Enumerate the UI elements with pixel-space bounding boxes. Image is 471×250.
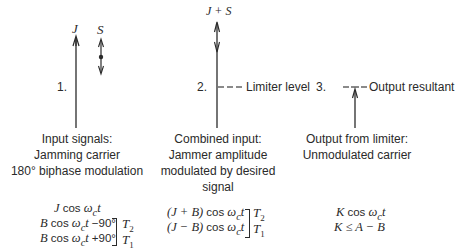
formula-bracket — [245, 209, 250, 238]
formula-omega: ω — [84, 201, 93, 215]
j-plus-s-vector-arrow — [215, 22, 220, 128]
formula-t: t — [97, 201, 100, 215]
formula-cos: cos — [63, 202, 81, 214]
panel-2-number: 2. — [197, 80, 207, 94]
formula-var: J — [54, 201, 60, 215]
formula-b-plus-90: B cos ωct +90° — [40, 231, 116, 250]
caption-line: Jammer amplitude — [150, 147, 286, 163]
formula-cos: cos — [206, 221, 224, 233]
panel-1-number: 1. — [57, 80, 67, 94]
j-vector-arrow — [73, 36, 79, 128]
limiter-level-label: Limiter level — [246, 80, 310, 94]
s-vector-label: S — [97, 22, 104, 38]
output-vector-arrow — [353, 89, 358, 128]
panel-2-caption: Combined input: Jammer amplitude modulat… — [150, 131, 286, 195]
formula-var: B — [40, 216, 48, 230]
formula-t: t — [382, 205, 385, 219]
formula-var: B — [40, 231, 48, 245]
formula-t: t — [85, 231, 88, 245]
formula-omega: ω — [72, 231, 81, 245]
formula-var: K — [336, 205, 344, 219]
panel-3-number: 3. — [316, 80, 326, 94]
formula-cos: cos — [206, 206, 224, 218]
j-plus-s-label: J + S — [206, 4, 231, 19]
output-resultant-label: Output resultant — [369, 80, 454, 94]
caption-line: Unmodulated carrier — [296, 147, 418, 163]
caption-line: 180° biphase modulation — [2, 163, 152, 179]
formula-cos: cos — [51, 232, 69, 244]
formula-var: (J + B) — [167, 205, 203, 219]
formula-t: t — [241, 220, 244, 234]
formula-bracket — [112, 218, 117, 246]
formula-omega: ω — [227, 220, 236, 234]
t2-label: T2 — [122, 216, 134, 234]
formula-t: t — [241, 205, 244, 219]
caption-line: signal — [150, 179, 286, 195]
caption-line: Output from limiter: — [296, 131, 418, 147]
formula-t: t — [85, 216, 88, 230]
panel-1-caption: Input signals: Jamming carrier 180° biph… — [2, 131, 152, 179]
formula-omega: ω — [369, 205, 378, 219]
caption-line: Input signals: — [2, 131, 152, 147]
panel-3-caption: Output from limiter: Unmodulated carrier — [296, 131, 418, 163]
t1-label: T1 — [122, 232, 134, 250]
formula-j-minus-b: (J − B) cos ωct — [167, 220, 244, 239]
formula-cos: cos — [347, 206, 365, 218]
caption-line: Jamming carrier — [2, 147, 152, 163]
t-subscript: 1 — [129, 240, 134, 250]
t1-label: T1 — [253, 221, 265, 239]
formula-k-inequality: K ≤ A − B — [334, 220, 385, 235]
formula-inequality: K ≤ A − B — [334, 220, 385, 234]
formula-cos: cos — [51, 217, 69, 229]
caption-line: Combined input: — [150, 131, 286, 147]
formula-var: (J − B) — [167, 220, 203, 234]
formula-omega: ω — [72, 216, 81, 230]
t2-label: T2 — [253, 205, 265, 223]
caption-line: modulated by desired — [150, 163, 286, 179]
j-vector-label: J — [72, 21, 78, 37]
t-subscript: 1 — [260, 229, 265, 239]
formula-omega: ω — [227, 205, 236, 219]
s-vector-double-arrow — [99, 39, 104, 74]
